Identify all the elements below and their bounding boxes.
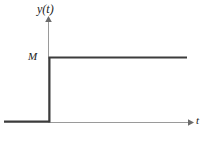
x-axis-label: t (196, 115, 199, 126)
step-function-plot (0, 0, 208, 141)
figure-container: y(t) M t (0, 0, 208, 141)
y-axis-label: y(t) (37, 3, 54, 15)
x-axis-arrow-icon (188, 119, 194, 126)
y-axis-arrow-icon (45, 16, 52, 22)
level-label-m: M (28, 51, 37, 62)
